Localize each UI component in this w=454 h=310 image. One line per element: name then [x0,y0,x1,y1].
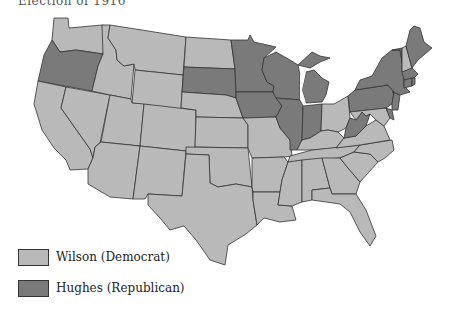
state-connecticut [404,78,412,88]
state-florida [312,188,376,246]
state-washington [52,18,106,54]
state-arizona [88,142,140,199]
state-kansas [195,117,248,148]
state-north-dakota [184,37,235,69]
legend-label-hughes: Hughes (Republican) [56,281,185,295]
state-colorado [140,104,196,152]
legend-swatch-wilson [18,249,49,266]
state-ohio [321,96,350,132]
legend-label-wilson: Wilson (Democrat) [56,250,170,264]
state-maine [406,26,432,68]
state-rhode-island [412,78,415,86]
state-new-mexico [133,146,186,199]
legend-swatch-hughes [18,280,49,297]
